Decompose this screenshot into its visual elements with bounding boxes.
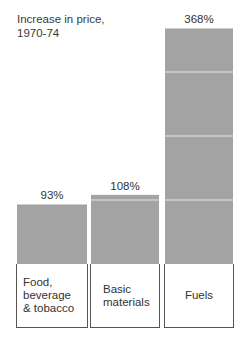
category-label-box: Fuels (164, 264, 234, 328)
value-label: 108% (91, 180, 159, 192)
bar-1 (91, 195, 159, 264)
category-label: Basic materials (103, 283, 150, 309)
category-label: Food, beverage & tobacco (23, 276, 74, 315)
value-label: 368% (165, 13, 233, 25)
category-label: Fuels (185, 289, 213, 302)
bar-0 (17, 204, 87, 264)
category-label-box: Basic materials (90, 264, 160, 328)
category-label-box: Food, beverage & tobacco (16, 264, 88, 328)
bar-2 (165, 28, 233, 264)
value-label: 93% (17, 189, 87, 201)
